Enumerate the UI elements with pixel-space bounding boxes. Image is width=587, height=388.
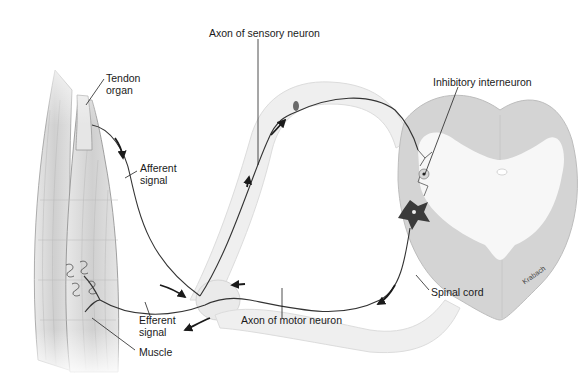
diagram-canvas [0,0,587,388]
label-efferent-line1: Efferent [139,314,176,326]
label-afferent-line1: Afferent [140,162,177,174]
label-tendon-organ-line2: organ [106,84,140,96]
motor-axon [84,228,410,314]
sensory-neuron-cell-body [293,101,299,111]
label-inhibitory-interneuron: Inhibitory interneuron [433,76,532,88]
reflex-diagram: Tendon organ Afferent signal Axon of sen… [0,0,587,388]
label-axon-sensory-neuron: Axon of sensory neuron [209,27,320,39]
label-axon-motor-neuron: Axon of motor neuron [241,314,342,326]
label-muscle: Muscle [139,346,172,358]
label-tendon-organ-line1: Tendon [106,72,140,84]
label-efferent-line2: signal [139,326,176,338]
label-afferent-signal: Afferent signal [140,162,177,186]
label-tendon-organ: Tendon organ [106,72,140,96]
label-spinal-cord: Spinal cord [431,286,484,298]
label-afferent-line2: signal [140,174,177,186]
label-efferent-signal: Efferent signal [139,314,176,338]
